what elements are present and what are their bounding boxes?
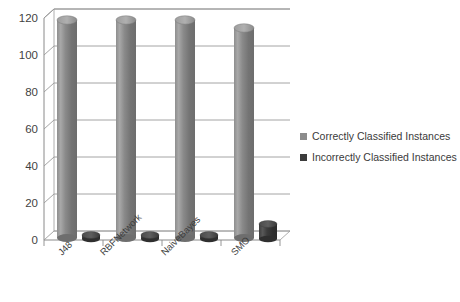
bar-rbfnetwork-incorrect[interactable]	[141, 232, 159, 243]
legend-swatch-correctly-classified	[300, 133, 307, 140]
bar-smo-correct[interactable]	[234, 24, 254, 242]
bar-rbfnetwork-correct[interactable]	[116, 16, 136, 242]
y-tick-100: 100	[19, 49, 38, 61]
y-tick-0: 0	[32, 234, 38, 246]
legend-label-correctly-classified: Correctly Classified Instances	[312, 130, 450, 142]
bar-chart-3d: 120 100 80 60 40 20 0	[0, 0, 460, 302]
bar-j48-correct[interactable]	[57, 16, 77, 242]
bar-naivebayes-incorrect[interactable]	[200, 232, 218, 243]
legend-item-correctly-classified[interactable]: Correctly Classified Instances	[300, 130, 450, 142]
bar-j48-incorrect[interactable]	[82, 232, 100, 243]
y-tick-120: 120	[19, 12, 38, 24]
y-tick-40: 40	[25, 160, 38, 172]
legend-label-incorrectly-classified: Incorrectly Classified Instances	[312, 151, 457, 163]
y-tick-60: 60	[25, 123, 38, 135]
legend-swatch-incorrectly-classified	[300, 154, 307, 161]
chart-container: 120 100 80 60 40 20 0	[0, 0, 460, 302]
bar-naivebayes-correct[interactable]	[175, 16, 195, 242]
legend-item-incorrectly-classified[interactable]: Incorrectly Classified Instances	[300, 151, 457, 163]
y-tick-80: 80	[25, 86, 38, 98]
y-tick-20: 20	[25, 197, 38, 209]
bar-smo-incorrect[interactable]	[259, 221, 277, 243]
